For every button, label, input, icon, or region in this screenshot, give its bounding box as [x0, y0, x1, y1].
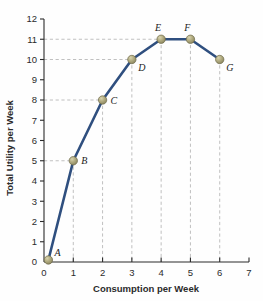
- point-label-A: A: [53, 247, 61, 258]
- x-tick-label-2: 2: [100, 267, 105, 278]
- y-tick-label-3: 3: [32, 196, 37, 207]
- data-point-D[interactable]: [128, 55, 136, 63]
- y-tick-label-2: 2: [32, 216, 37, 227]
- data-point-labels: ABCDEFG: [53, 22, 233, 258]
- data-point-A[interactable]: [44, 256, 52, 264]
- x-axis-tick-labels: 01234567: [41, 267, 251, 278]
- data-line-total-utility: [48, 39, 219, 260]
- data-point-C[interactable]: [98, 96, 106, 104]
- y-tick-label-11: 11: [27, 34, 37, 45]
- y-tick-label-10: 10: [26, 54, 37, 65]
- y-tick-label-4: 4: [32, 175, 37, 186]
- point-label-D: D: [137, 62, 146, 73]
- x-tick-label-0: 0: [41, 267, 46, 278]
- data-point-G[interactable]: [216, 55, 224, 63]
- x-tick-label-6: 6: [217, 267, 222, 278]
- y-tick-label-8: 8: [32, 94, 37, 105]
- point-label-F: F: [183, 22, 191, 33]
- x-tick-label-7: 7: [246, 267, 251, 278]
- point-label-E: E: [154, 22, 161, 33]
- x-tick-label-5: 5: [188, 267, 193, 278]
- x-tick-label-1: 1: [71, 267, 76, 278]
- data-point-E[interactable]: [157, 35, 165, 43]
- y-axis-title: Total Utility per Week: [4, 99, 15, 195]
- y-tick-label-0: 0: [32, 256, 37, 267]
- y-axis-tick-labels: 0123456789101112: [26, 13, 37, 267]
- x-tick-label-4: 4: [158, 267, 163, 278]
- x-axis-title: Consumption per Week: [93, 283, 200, 294]
- y-tick-label-6: 6: [32, 135, 37, 146]
- y-tick-label-7: 7: [32, 115, 37, 126]
- point-label-B: B: [81, 155, 87, 166]
- y-tick-label-12: 12: [26, 13, 37, 24]
- y-tick-label-5: 5: [32, 155, 37, 166]
- gridlines: [44, 39, 220, 262]
- x-tick-label-3: 3: [129, 267, 134, 278]
- point-label-G: G: [226, 62, 233, 73]
- data-point-B[interactable]: [69, 157, 77, 165]
- data-point-F[interactable]: [186, 35, 194, 43]
- series-polyline: [48, 39, 219, 260]
- total-utility-chart: 0123456789101112 01234567 ABCDEFG Consum…: [0, 0, 263, 301]
- chart-canvas: 0123456789101112 01234567 ABCDEFG Consum…: [0, 0, 263, 301]
- point-label-C: C: [111, 95, 118, 106]
- y-tick-label-9: 9: [32, 74, 37, 85]
- data-point-markers: [44, 35, 224, 264]
- y-tick-label-1: 1: [32, 236, 37, 247]
